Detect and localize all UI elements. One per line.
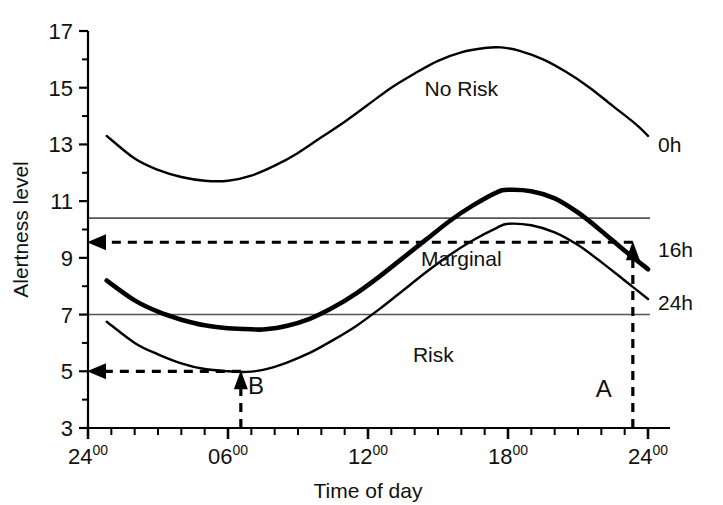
x-tick-label: 1800 <box>488 442 528 469</box>
y-axis-title: Alertness level <box>9 161 32 298</box>
x-tick-label: 2400 <box>68 442 108 469</box>
x-tick-label: 1200 <box>348 442 388 469</box>
x-axis-title: Time of day <box>314 479 423 502</box>
curve-16h <box>107 190 648 330</box>
annotation-label-B: B <box>248 372 264 399</box>
y-tick-label: 11 <box>50 189 73 214</box>
annotation-arrowhead-left-B <box>87 363 106 379</box>
y-tick-label: 3 <box>61 416 73 441</box>
region-label-risk: Risk <box>413 343 454 366</box>
annotation-arrowhead-left-A <box>87 234 106 250</box>
y-tick-label: 17 <box>49 19 73 44</box>
y-tick-label: 9 <box>61 246 73 271</box>
series-end-label-24h: 24h <box>658 291 693 314</box>
alertness-chart-figure: 35791113151724000600120018002400Time of … <box>0 0 723 505</box>
curve-24h <box>107 224 648 372</box>
series-end-label-16h: 16h <box>658 238 693 261</box>
x-tick-label: 0600 <box>208 442 248 469</box>
curve-0h <box>107 47 648 181</box>
y-tick-label: 7 <box>61 303 73 328</box>
chart-canvas: 35791113151724000600120018002400Time of … <box>0 0 723 505</box>
region-label-marginal: Marginal <box>421 247 502 270</box>
y-tick-label: 5 <box>61 359 73 384</box>
series-end-label-0h: 0h <box>658 133 681 156</box>
x-tick-label: 2400 <box>628 442 668 469</box>
y-tick-label: 13 <box>49 132 73 157</box>
y-tick-label: 15 <box>49 76 73 101</box>
region-label-no-risk: No Risk <box>425 77 499 100</box>
annotation-arrowhead-up-B <box>234 370 248 389</box>
annotation-label-A: A <box>596 375 612 402</box>
